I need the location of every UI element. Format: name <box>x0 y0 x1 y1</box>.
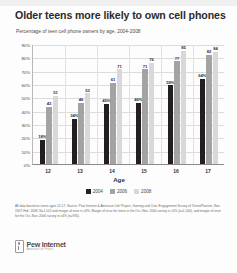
y-axis-tick: 10% <box>21 149 30 154</box>
vertical-gridline <box>193 45 194 164</box>
bar-2008-age-14[interactable]: 71 <box>117 69 123 164</box>
bar-value-label: 43 <box>47 101 52 106</box>
bar-value-label: 71 <box>117 64 122 69</box>
legend-item-2008[interactable]: 2008 <box>134 189 151 194</box>
bar-group: 34%4653 <box>72 45 91 164</box>
legend-swatch-icon <box>110 189 115 194</box>
chart-legend: 200420062008 <box>0 189 237 194</box>
bar-2006-age-13[interactable]: 46 <box>78 103 84 164</box>
x-axis-tick: 14 <box>109 168 115 174</box>
x-axis-tick: 12 <box>45 168 51 174</box>
bar-2006-age-17[interactable]: 82 <box>206 55 212 164</box>
y-axis-tick: 70% <box>21 69 30 74</box>
y-axis-tick: 20% <box>21 136 30 141</box>
y-axis-tick: 90% <box>21 43 30 48</box>
bar-2008-age-13[interactable]: 53 <box>85 93 91 164</box>
pew-internet-logo: Pew Internet American Life Project <box>15 240 66 253</box>
bar-value-label: 71 <box>143 64 148 69</box>
legend-label: 2008 <box>141 189 151 194</box>
vertical-gridline <box>161 45 162 164</box>
y-axis-tick: 40% <box>21 109 30 114</box>
bar-2008-age-17[interactable]: 84 <box>213 52 219 164</box>
bar-value-label: 77 <box>175 56 180 61</box>
bar-2004-age-12[interactable]: 18% <box>40 140 46 164</box>
legend-label: 2006 <box>117 189 127 194</box>
plot-area: 18%435134%465345%617146%717659%778564%82… <box>32 45 224 165</box>
bar-value-label: 51 <box>53 90 58 95</box>
bar-2004-age-13[interactable]: 34% <box>72 119 78 164</box>
legend-label: 2004 <box>93 189 103 194</box>
chart-subtitle: Percentage of teen cell phone owners by … <box>16 29 141 34</box>
bar-value-label: 53 <box>85 88 90 93</box>
bar-2008-age-15[interactable]: 76 <box>149 63 155 164</box>
x-axis-tick: 17 <box>205 168 211 174</box>
chart-footnote: All data based on teens ages 12-17. Sour… <box>15 204 224 218</box>
bar-2004-age-17[interactable]: 64% <box>200 79 206 164</box>
legend-item-2006[interactable]: 2006 <box>110 189 127 194</box>
pew-logo-icon <box>15 240 24 253</box>
bar-2004-age-14[interactable]: 45% <box>104 104 110 164</box>
legend-swatch-icon <box>134 189 139 194</box>
bar-value-label: 85 <box>181 45 186 50</box>
x-axis-tick: 15 <box>141 168 147 174</box>
x-axis-tick: 13 <box>77 168 83 174</box>
bar-2006-age-12[interactable]: 43 <box>46 107 52 164</box>
legend-swatch-icon <box>86 189 91 194</box>
bar-2008-age-16[interactable]: 85 <box>181 51 187 164</box>
legend-item-2004[interactable]: 2004 <box>86 189 103 194</box>
page-top-edge <box>0 0 237 6</box>
bar-group: 64%8284 <box>200 45 219 164</box>
bar-group: 18%4351 <box>40 45 59 164</box>
chart-title: Older teens more likely to own cell phon… <box>15 9 226 21</box>
bar-2008-age-12[interactable]: 51 <box>53 96 59 164</box>
bar-group: 59%7785 <box>168 45 187 164</box>
bar-2006-age-14[interactable]: 61 <box>110 83 116 164</box>
logo-tagline: American Life Project <box>27 249 66 252</box>
y-axis-tick: 60% <box>21 83 30 88</box>
bar-2004-age-16[interactable]: 59% <box>168 85 174 164</box>
y-axis: 90%80%70%60%50%40%30%20%10%0% <box>14 45 31 165</box>
bar-value-label: 76 <box>149 57 154 62</box>
bar-group: 46%7176 <box>136 45 155 164</box>
bar-2006-age-15[interactable]: 71 <box>142 69 148 164</box>
bar-value-label: 84 <box>213 46 218 51</box>
x-axis-tick: 16 <box>173 168 179 174</box>
y-axis-tick: 30% <box>21 123 30 128</box>
y-axis-tick: 0% <box>24 163 30 168</box>
y-axis-tick: 50% <box>21 96 30 101</box>
vertical-gridline <box>65 45 66 164</box>
y-axis-tick: 80% <box>21 56 30 61</box>
x-axis-labels: 121314151617 <box>32 166 224 176</box>
bar-value-label: 46 <box>79 97 84 102</box>
bar-value-label: 82 <box>207 49 212 54</box>
vertical-gridline <box>129 45 130 164</box>
chart-page: Older teens more likely to own cell phon… <box>0 0 237 273</box>
bar-2006-age-16[interactable]: 77 <box>174 61 180 164</box>
bar-value-label: 61 <box>111 77 116 82</box>
chart-plot: 90%80%70%60%50%40%30%20%10%0% 18%435134%… <box>14 45 224 173</box>
x-axis-title: Age <box>14 176 224 183</box>
bar-2004-age-15[interactable]: 46% <box>136 103 142 164</box>
vertical-gridline <box>97 45 98 164</box>
logo-text: Pew Internet American Life Project <box>27 241 66 252</box>
bar-group: 45%6171 <box>104 45 123 164</box>
